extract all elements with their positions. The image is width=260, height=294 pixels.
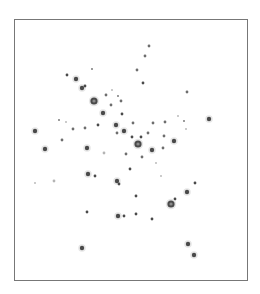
diffraction-spot [86, 211, 89, 214]
diffraction-spot [84, 127, 87, 130]
diffraction-spot [136, 69, 139, 72]
diffraction-spot [41, 145, 49, 153]
diffraction-spot [125, 153, 128, 156]
spot-core [151, 218, 154, 221]
diffraction-spot [72, 75, 80, 83]
spot-core [162, 147, 165, 150]
spot-core [207, 117, 211, 121]
diffraction-spot [205, 115, 213, 123]
diffraction-spot [116, 132, 119, 135]
spot-core [121, 113, 124, 116]
spot-center [169, 202, 172, 205]
spot-core [85, 146, 89, 150]
spot-core [155, 162, 157, 164]
diffraction-spot [117, 95, 119, 97]
spot-core [114, 123, 118, 127]
diffraction-spot [66, 74, 69, 77]
diffraction-spot [142, 82, 145, 85]
diffraction-spot [78, 244, 86, 252]
diffraction-spot [147, 132, 150, 135]
spot-core [122, 129, 126, 133]
diffraction-spot [123, 215, 126, 218]
spot-core [163, 135, 166, 138]
diffraction-spot [155, 162, 157, 164]
spot-core [125, 153, 128, 156]
diffraction-spot [103, 152, 106, 155]
diffraction-spot [91, 68, 93, 70]
spot-core [129, 168, 132, 171]
diffraction-spot [129, 168, 132, 171]
diffraction-spot [164, 121, 167, 124]
spot-core [118, 183, 121, 186]
diffraction-spot [186, 91, 189, 94]
diffraction-spot [177, 115, 179, 117]
diffraction-spot [94, 175, 97, 178]
diffraction-spot [131, 136, 134, 139]
diffraction-spot [97, 124, 100, 127]
diffraction-spot [53, 180, 56, 183]
spot-core [116, 214, 120, 218]
spot-core [80, 246, 84, 250]
spot-center [92, 99, 95, 102]
spot-core [150, 148, 154, 152]
spot-core [94, 175, 97, 178]
spot-core [72, 128, 75, 131]
diffraction-spot [112, 121, 120, 129]
diffraction-spot [89, 96, 99, 106]
diffraction-spot [111, 89, 113, 91]
spot-core [101, 111, 105, 115]
diffraction-spots [0, 0, 260, 294]
diffraction-spot [183, 188, 191, 196]
diffraction-spot [133, 139, 143, 149]
diffraction-spot [144, 55, 147, 58]
spot-core [120, 100, 123, 103]
diffraction-spot [118, 183, 121, 186]
spot-core [43, 147, 47, 151]
diffraction-spot [58, 119, 60, 121]
spot-core [86, 211, 89, 214]
diffraction-spot [183, 120, 185, 122]
spot-core [142, 82, 145, 85]
diffraction-spot [141, 156, 144, 159]
spot-core [115, 179, 119, 183]
diffraction-spot [190, 251, 198, 259]
spot-core [148, 45, 151, 48]
spot-core [147, 132, 150, 135]
spot-core [141, 156, 144, 159]
spot-core [97, 124, 100, 127]
spot-core [185, 128, 187, 130]
spot-core [103, 152, 106, 155]
diffraction-spot [148, 146, 156, 154]
diffraction-spot [31, 127, 39, 135]
spot-core [34, 182, 36, 184]
spot-core [172, 139, 176, 143]
spot-core [160, 175, 162, 177]
diffraction-spot [135, 195, 138, 198]
spot-center [136, 142, 139, 145]
diffraction-spot [61, 139, 64, 142]
spot-core [136, 69, 139, 72]
spot-core [33, 129, 37, 133]
spot-core [131, 136, 134, 139]
spot-core [66, 74, 69, 77]
diffraction-spot [114, 212, 122, 220]
spot-core [185, 190, 189, 194]
spot-core [192, 253, 196, 257]
spot-core [116, 132, 119, 135]
spot-core [144, 55, 147, 58]
diffraction-spot [194, 182, 197, 185]
diffraction-spot [132, 122, 135, 125]
spot-core [91, 68, 93, 70]
diffraction-spot [163, 135, 166, 138]
spot-core [164, 121, 167, 124]
spot-core [74, 77, 78, 81]
diffraction-spot [160, 175, 162, 177]
spot-core [135, 195, 138, 198]
diffraction-spot [121, 113, 124, 116]
diffraction-spot [135, 213, 138, 216]
spot-core [183, 120, 185, 122]
spot-core [194, 182, 197, 185]
spot-core [86, 172, 90, 176]
diffraction-spot [120, 127, 128, 135]
diffraction-spot [185, 128, 187, 130]
